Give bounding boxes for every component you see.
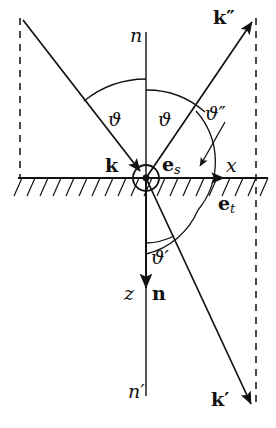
label-k-incident: k	[105, 156, 118, 175]
angle-arc-theta-doubleprime	[196, 111, 215, 210]
label-unit-vector-es-sub: s	[174, 162, 181, 177]
label-unit-vector-et-base: e	[218, 192, 230, 214]
label-unit-vector-et: et	[218, 194, 235, 216]
origin-dot-out-of-page	[143, 175, 150, 182]
label-theta-reflected: ϑ	[158, 110, 172, 129]
label-unit-vector-es-base: e	[162, 153, 174, 175]
label-k-reflected: k″	[213, 8, 235, 27]
optics-diagram: n n′ k k″ k′ ϑ ϑ ϑ″ ϑ′ x z n es et	[0, 0, 276, 428]
label-normal-vector: n	[152, 284, 166, 303]
label-theta-incident: ϑ	[108, 110, 122, 129]
label-theta-doubleprime: ϑ″	[205, 104, 226, 123]
theta-doubleprime-pointer	[200, 122, 225, 166]
incident-ray-k	[23, 20, 140, 171]
label-medium-lower: n′	[128, 382, 145, 401]
angle-arc-theta-reflected	[146, 90, 205, 112]
label-k-transmitted: k′	[211, 390, 229, 409]
label-axis-z: z	[124, 284, 134, 303]
angle-arc-theta-incident	[84, 79, 146, 101]
label-theta-prime: ϑ′	[151, 248, 169, 267]
label-medium-upper: n	[130, 26, 142, 45]
angle-arc-theta-prime-inner	[146, 236, 174, 243]
label-unit-vector-es: es	[162, 155, 181, 177]
label-axis-x: x	[226, 156, 237, 175]
label-unit-vector-et-sub: t	[230, 201, 235, 216]
